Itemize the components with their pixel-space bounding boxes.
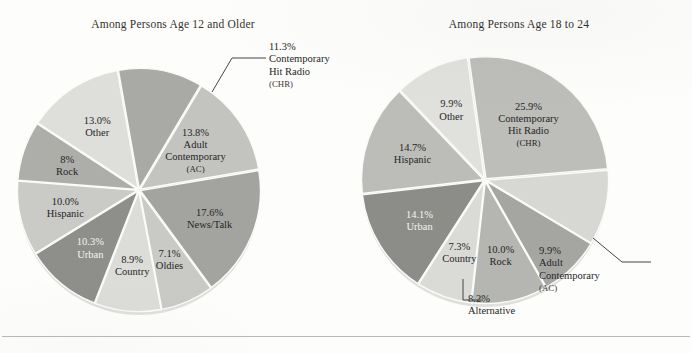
leader-line-chr [212,58,266,92]
callout-alt-line1: Alternative [468,305,515,317]
callout-alt-pct: 8.2% [468,293,515,305]
callout-ac-pct: 9.9% [539,245,600,257]
callout-left-line2: Hit Radio [269,66,330,78]
bottom-rule [2,336,690,337]
callout-left-line1: Contemporary [269,53,330,65]
pie-chart-age-18-to-24 [346,0,692,353]
radio-format-share-figure: Among Persons Age 12 and Older 13.8%Adul… [0,0,692,353]
callout-alternative-right: 8.2% Alternative [468,293,515,318]
callout-ac-line2: Contemporary [539,270,600,282]
callout-chr-left: 11.3% Contemporary Hit Radio (CHR) [269,41,330,91]
callout-ac-sub: (AC) [539,282,600,294]
pie-panel-age-18-to-24: Among Persons Age 18 to 24 25.9%Contempo… [346,0,692,353]
pie-slice[interactable] [469,57,608,179]
callout-left-sub: (CHR) [269,78,330,90]
callout-ac-right: 9.9% Adult Contemporary (AC) [539,245,600,295]
callout-left-pct: 11.3% [269,41,330,53]
leader-line-ac [593,238,651,262]
callout-ac-line1: Adult [539,257,600,269]
pie-panel-age-12-and-older: Among Persons Age 12 and Older 13.8%Adul… [0,0,346,353]
